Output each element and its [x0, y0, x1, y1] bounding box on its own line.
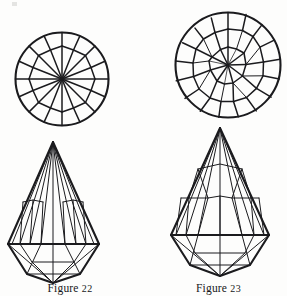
figure-23-caption-number: 23 — [230, 283, 241, 294]
crown-facet-rays — [12, 142, 94, 244]
illustration-plate: Figure 22 — [0, 0, 287, 296]
figure-22-profile-view — [0, 136, 140, 296]
figure-22-caption-number: 22 — [82, 283, 93, 294]
figure-23-block: Figure 23 — [150, 0, 287, 296]
figure-22-block: Figure 22 — [0, 0, 140, 296]
inner-star-rosette — [209, 47, 246, 84]
figure-22-caption: Figure 22 — [0, 282, 140, 294]
figure-23-crown-plan-view — [150, 8, 287, 138]
figure-23-profile-view — [150, 122, 287, 287]
figure-23-caption-label: Figure — [196, 282, 227, 294]
pavilion-facets — [171, 235, 269, 276]
pavilion-facets — [8, 244, 99, 283]
figure-22-caption-label: Figure — [47, 282, 78, 294]
figure-23-caption: Figure 23 — [150, 282, 287, 294]
figure-22-crown-plan-view — [0, 6, 140, 146]
